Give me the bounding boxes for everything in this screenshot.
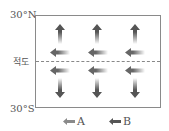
legend-item-b: B [109,116,131,127]
arrow-left-icon [88,48,108,57]
arrow-up-icon [130,24,140,44]
arrow-left-icon [125,48,145,57]
legend-label-b: B [123,116,131,127]
equator-line [36,61,160,62]
arrow-left-icon [88,66,108,75]
arrow-left-icon [50,66,70,75]
arrow-left-icon [125,66,145,75]
legend-label-a: A [77,116,85,127]
latitude-label-south: 30°S [10,104,35,114]
arrow-left-light-icon [63,118,75,125]
arrow-down-icon [130,78,140,98]
arrow-up-icon [92,24,102,44]
arrow-up-icon [55,24,65,44]
arrow-left-dark-icon [109,118,121,125]
arrow-left-icon [50,48,70,57]
arrow-down-icon [55,78,65,98]
latitude-label-north: 30°N [10,10,36,20]
arrow-down-icon [92,78,102,98]
legend-item-a: A [63,116,85,127]
latitude-label-equator: 적도 [13,57,29,67]
